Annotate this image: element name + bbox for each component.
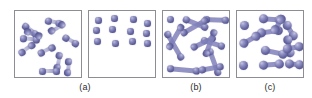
molecule: [144, 40, 151, 47]
molecule: [259, 14, 269, 24]
atom: [259, 14, 269, 24]
molecule: [198, 66, 206, 74]
molecule: [127, 28, 134, 35]
atom: [143, 30, 150, 37]
atom: [167, 16, 174, 23]
atom: [198, 66, 206, 74]
atom: [71, 39, 80, 48]
caption-c: (c): [236, 82, 304, 93]
atom: [222, 17, 229, 24]
molecular-states-figure: (a)(b)(c): [0, 0, 312, 98]
panel-content: [237, 11, 303, 77]
molecule: [144, 20, 151, 27]
panel-content: [163, 11, 229, 77]
molecule: [240, 21, 249, 30]
molecule: [58, 20, 67, 29]
molecule: [109, 26, 116, 33]
atom: [217, 42, 226, 51]
atom: [127, 28, 134, 35]
atom: [260, 45, 271, 56]
atom: [56, 52, 64, 60]
atom: [176, 52, 186, 62]
molecule: [190, 42, 199, 51]
atom: [94, 38, 101, 45]
panel-2: [88, 10, 156, 78]
molecule: [129, 38, 136, 45]
atom: [130, 16, 137, 23]
atom: [240, 21, 249, 30]
molecule: [56, 52, 64, 60]
molecule: [39, 68, 46, 75]
atom: [53, 68, 60, 75]
atom: [144, 20, 151, 27]
atom: [112, 40, 119, 47]
atom: [285, 59, 295, 69]
panel-1: [14, 10, 82, 78]
panel-content: [89, 11, 155, 77]
molecule: [182, 15, 191, 24]
atom: [129, 38, 136, 45]
molecule: [95, 17, 102, 24]
atom: [282, 44, 292, 54]
molecule: [238, 37, 250, 49]
molecule: [259, 60, 269, 70]
atom: [95, 17, 102, 24]
atom: [44, 17, 52, 25]
molecule: [209, 28, 218, 37]
atom: [259, 60, 269, 70]
molecule: [93, 27, 100, 34]
molecule: [167, 65, 175, 73]
atom: [275, 59, 285, 69]
atom: [295, 60, 303, 70]
atom: [167, 65, 175, 73]
atom: [216, 63, 224, 71]
atom: [93, 27, 100, 34]
molecule: [130, 16, 137, 23]
molecule: [285, 59, 295, 69]
molecule: [111, 15, 118, 22]
molecule: [20, 35, 27, 42]
molecule: [17, 48, 26, 57]
molecule: [167, 16, 174, 23]
atom: [144, 40, 151, 47]
atom: [64, 69, 71, 76]
atom: [294, 41, 303, 51]
molecule: [282, 44, 292, 54]
molecule: [94, 38, 101, 45]
molecule: [37, 49, 46, 58]
molecule: [61, 33, 70, 42]
panel-4: [236, 10, 304, 78]
atom: [109, 26, 116, 33]
molecule: [260, 45, 271, 56]
atom: [39, 68, 46, 75]
atom: [20, 35, 27, 42]
panel-content: [15, 11, 81, 77]
molecule: [65, 58, 72, 65]
atom: [239, 61, 248, 70]
molecule: [112, 40, 119, 47]
molecule: [143, 30, 150, 37]
atom: [65, 58, 72, 65]
atom: [111, 15, 118, 22]
caption-a: (a): [14, 82, 156, 93]
molecule: [44, 17, 52, 25]
panel-3: [162, 10, 230, 78]
caption-b: (b): [162, 82, 230, 93]
molecule: [239, 61, 248, 70]
